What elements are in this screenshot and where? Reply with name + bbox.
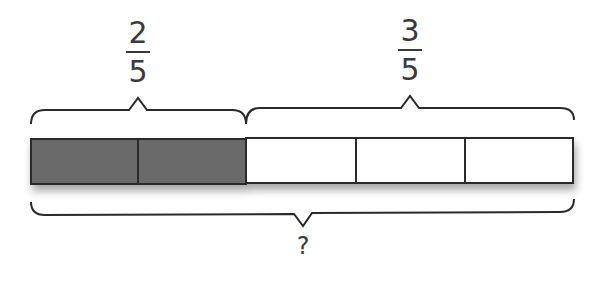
- fraction-left-denominator: 5: [118, 57, 158, 87]
- brace-right-part: [246, 96, 574, 124]
- brace-total: [31, 199, 574, 226]
- tape-bar: [31, 138, 573, 184]
- fraction-bar: [126, 51, 150, 53]
- fraction-right: 3 5: [390, 16, 430, 85]
- tape-diagram: 2 5 3 5 ?: [0, 0, 589, 282]
- tape-segment-4: [356, 138, 465, 183]
- fraction-left-numerator: 2: [118, 18, 158, 48]
- fraction-left: 2 5: [118, 18, 158, 87]
- tape-segment-5: [465, 138, 573, 183]
- fraction-right-denominator: 5: [390, 55, 430, 85]
- brace-left-part: [31, 98, 246, 124]
- tape-segment-1: [31, 139, 138, 184]
- fraction-bar: [398, 49, 422, 51]
- tape-segment-3: [246, 138, 356, 183]
- tape-segment-2: [138, 139, 246, 184]
- fraction-right-numerator: 3: [390, 16, 430, 46]
- total-unknown-label: ?: [288, 232, 318, 260]
